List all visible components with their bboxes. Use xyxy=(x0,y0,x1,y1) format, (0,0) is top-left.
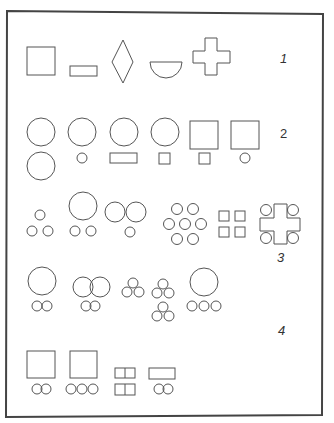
small-circle-shape xyxy=(172,234,183,245)
small-circle-shape xyxy=(164,219,175,230)
cross-shape xyxy=(193,38,230,75)
figure-frame xyxy=(6,11,323,417)
circle-shape xyxy=(28,267,56,295)
row-label-3: 3 xyxy=(277,250,285,265)
square-shape xyxy=(70,351,97,378)
rectangle-shape xyxy=(149,368,175,379)
small-circle-shape xyxy=(196,219,207,230)
small-circle-shape xyxy=(180,219,191,230)
circle-shape xyxy=(190,268,218,296)
circle-shape xyxy=(68,118,96,146)
small-circle-shape xyxy=(261,233,272,244)
circle-shape xyxy=(27,152,55,180)
small-circle-shape xyxy=(27,226,37,236)
small-circle-shape xyxy=(188,234,199,245)
small-circle-shape xyxy=(70,226,80,236)
circle-shape xyxy=(27,118,55,146)
cross-shape xyxy=(260,204,300,244)
small-circle-shape xyxy=(261,205,272,216)
small-circle-shape xyxy=(199,301,209,311)
small-square-shape xyxy=(199,153,210,164)
row-label-4: 4 xyxy=(278,323,285,338)
circle-shape xyxy=(69,192,97,220)
circle-shape xyxy=(151,118,179,146)
small-circle-shape xyxy=(42,301,52,311)
small-square-shape xyxy=(159,153,170,164)
small-circle-shape xyxy=(152,311,162,321)
small-circle-shape xyxy=(134,287,144,297)
row-4: 4 xyxy=(27,267,285,395)
small-circle-shape xyxy=(187,301,197,311)
small-circle-shape xyxy=(172,204,183,215)
row-3: 3 xyxy=(27,192,300,265)
square-shape xyxy=(27,351,55,378)
small-circle-shape xyxy=(158,302,168,312)
small-circle-shape xyxy=(288,233,299,244)
small-square-shape xyxy=(219,227,229,237)
small-circle-shape xyxy=(240,153,250,163)
small-circle-shape xyxy=(164,311,174,321)
small-circle-shape xyxy=(152,288,162,298)
small-circle-shape xyxy=(288,205,299,216)
square-shape xyxy=(231,121,259,149)
small-circle-shape xyxy=(32,301,42,311)
small-circle-shape xyxy=(35,210,45,220)
half-circle-shape xyxy=(150,62,182,78)
rectangle-shape xyxy=(110,153,137,163)
square-shape xyxy=(190,121,218,149)
small-circle-shape xyxy=(211,301,221,311)
rectangle-shape xyxy=(70,66,97,76)
shape-figure: 1 2 xyxy=(0,0,334,423)
medium-circle-shape xyxy=(105,202,125,222)
small-circle-shape xyxy=(43,226,53,236)
small-square-shape xyxy=(235,227,245,237)
small-square-shape xyxy=(235,211,245,221)
small-circle-shape xyxy=(86,226,96,236)
row-2: 2 xyxy=(27,118,287,180)
small-circle-shape xyxy=(122,287,132,297)
square-shape xyxy=(27,47,55,75)
small-circle-shape xyxy=(188,204,199,215)
small-circle-shape xyxy=(77,153,87,163)
small-circle-shape xyxy=(158,279,168,289)
small-circle-shape xyxy=(66,384,76,394)
row-label-1: 1 xyxy=(280,51,287,66)
row-1: 1 xyxy=(27,38,287,83)
medium-circle-shape xyxy=(126,202,146,222)
diamond-shape xyxy=(112,40,133,83)
circle-shape xyxy=(110,118,138,146)
small-circle-shape xyxy=(125,227,135,237)
small-circle-shape xyxy=(77,384,87,394)
small-circle-shape xyxy=(88,384,98,394)
row-label-2: 2 xyxy=(280,126,287,141)
small-circle-shape xyxy=(164,288,174,298)
small-circle-shape xyxy=(128,278,138,288)
small-square-shape xyxy=(219,211,229,221)
